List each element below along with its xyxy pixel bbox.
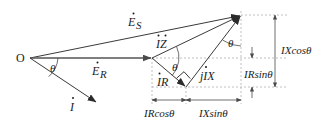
label-theta-apex: θ — [228, 37, 234, 49]
label-jix-group: jIX — [198, 66, 215, 83]
label-current-group: I — [69, 97, 75, 114]
label-er-group: E R — [91, 62, 107, 81]
label-es-group: E S — [127, 13, 142, 32]
label-theta-origin: θ — [50, 62, 56, 74]
label-es-subscript: S — [136, 19, 142, 31]
phasor-diagram-container: O E S E R IZ IR — [0, 0, 319, 131]
label-irsintheta: IRsinθ — [243, 68, 273, 80]
label-ixsintheta: IXsinθ — [198, 107, 228, 119]
label-origin: O — [16, 51, 25, 65]
right-angle-marker — [177, 72, 191, 79]
label-iz-group: IZ — [155, 35, 167, 52]
label-iz-dot-z-icon — [165, 35, 167, 37]
label-es-base: E — [127, 15, 136, 29]
label-iz: IZ — [155, 37, 167, 51]
diagram-labels: O E S E R IZ IR — [16, 13, 312, 120]
phasor-diagram-svg: O E S E R IZ IR — [0, 0, 319, 131]
label-ixcostheta: IXcosθ — [280, 44, 312, 56]
label-ir-group: IR — [156, 73, 169, 90]
vector-i — [30, 58, 96, 102]
label-er-dot-icon — [97, 62, 99, 64]
label-jix-dot-icon — [205, 66, 207, 68]
label-current-dot-icon — [72, 97, 74, 99]
label-er-base: E — [91, 64, 100, 78]
label-iz-dot-i-icon — [158, 35, 160, 37]
label-theta-mid: θ — [172, 61, 178, 73]
label-ir-dot-icon — [159, 73, 161, 75]
label-current: I — [69, 100, 75, 114]
label-er-subscript: R — [99, 68, 107, 80]
label-ir: IR — [156, 75, 169, 89]
label-es-dot-icon — [133, 13, 135, 15]
label-jix: jIX — [198, 69, 215, 83]
label-ircostheta: IRcosθ — [143, 107, 175, 119]
